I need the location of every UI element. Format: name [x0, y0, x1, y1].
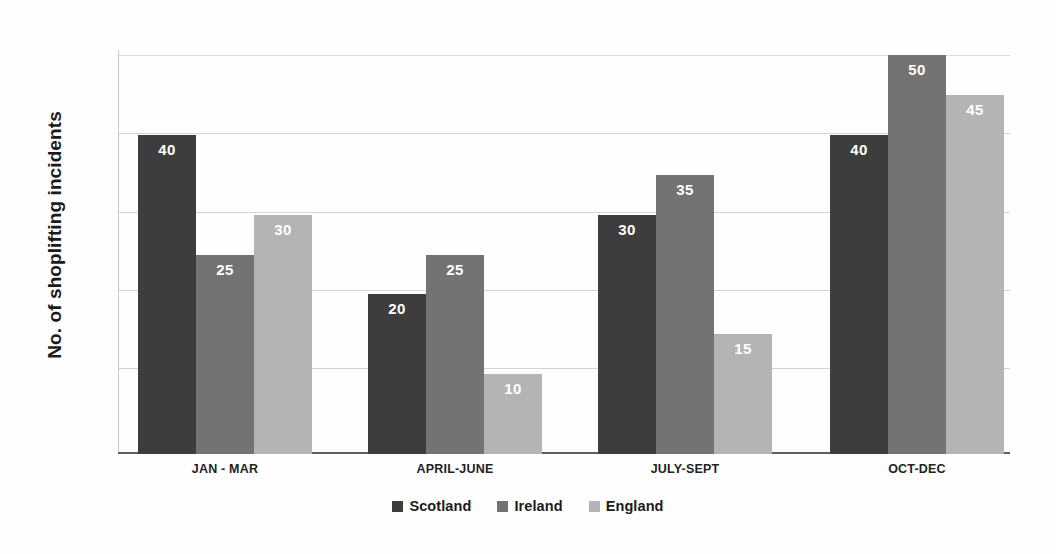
bar-group: 202510 [368, 50, 542, 454]
category-label: JULY-SEPT [598, 462, 772, 476]
bar-value-label: 25 [426, 262, 484, 277]
bar-scotland-oct-dec[interactable]: 40 [830, 135, 888, 454]
bar-ireland-jan-mar[interactable]: 25 [196, 255, 254, 455]
bars-layer: 402530202510303515405045 [118, 50, 1010, 454]
bar-group: 402530 [138, 50, 312, 454]
bar-value-label: 15 [714, 341, 772, 356]
bar-scotland-jan-mar[interactable]: 40 [138, 135, 196, 454]
category-labels: JAN - MARAPRIL-JUNEJULY-SEPTOCT-DEC [118, 458, 1010, 484]
legend-swatch-icon [392, 501, 403, 512]
bar-group: 303515 [598, 50, 772, 454]
legend-swatch-icon [497, 501, 508, 512]
bar-scotland-april-june[interactable]: 20 [368, 294, 426, 454]
bar-value-label: 25 [196, 262, 254, 277]
bar-england-oct-dec[interactable]: 45 [946, 95, 1004, 454]
bar-value-label: 40 [138, 142, 196, 157]
bar-value-label: 45 [946, 102, 1004, 117]
bar-value-label: 40 [830, 142, 888, 157]
legend-label: Scotland [409, 498, 471, 514]
legend-item-england[interactable]: England [589, 498, 664, 514]
bar-value-label: 30 [254, 222, 312, 237]
bar-value-label: 30 [598, 222, 656, 237]
category-label: JAN - MAR [138, 462, 312, 476]
y-axis-title-text: No. of shoplifting incidents [44, 111, 66, 359]
category-label: APRIL-JUNE [368, 462, 542, 476]
bar-group: 405045 [830, 50, 1004, 454]
bar-value-label: 50 [888, 62, 946, 77]
legend-item-ireland[interactable]: Ireland [497, 498, 562, 514]
legend-item-scotland[interactable]: Scotland [392, 498, 471, 514]
bar-ireland-april-june[interactable]: 25 [426, 255, 484, 455]
chart-page: No. of shoplifting incidents 40253020251… [0, 0, 1056, 554]
legend-label: Ireland [514, 498, 562, 514]
y-axis-title: No. of shoplifting incidents [0, 0, 110, 470]
category-label: OCT-DEC [830, 462, 1004, 476]
bar-ireland-oct-dec[interactable]: 50 [888, 55, 946, 454]
legend-swatch-icon [589, 501, 600, 512]
bar-scotland-july-sept[interactable]: 30 [598, 215, 656, 454]
bar-england-april-june[interactable]: 10 [484, 374, 542, 454]
bar-value-label: 10 [484, 381, 542, 396]
bar-england-july-sept[interactable]: 15 [714, 334, 772, 454]
bar-england-jan-mar[interactable]: 30 [254, 215, 312, 454]
legend-label: England [606, 498, 664, 514]
bar-value-label: 20 [368, 301, 426, 316]
bar-value-label: 35 [656, 182, 714, 197]
bar-ireland-july-sept[interactable]: 35 [656, 175, 714, 454]
chart-legend: ScotlandIrelandEngland [0, 498, 1056, 514]
